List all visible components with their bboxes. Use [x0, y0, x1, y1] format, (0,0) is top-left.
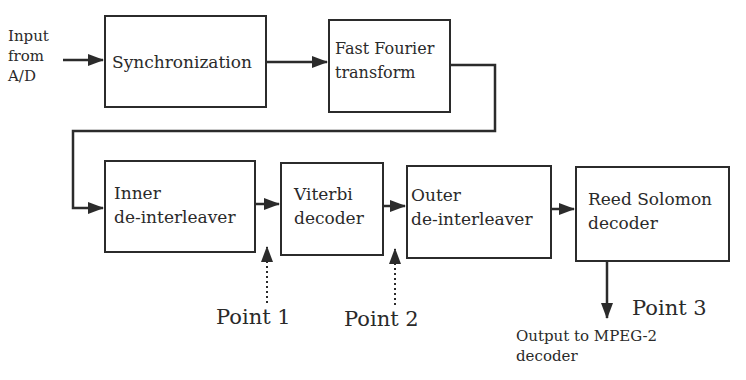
block-outer-deinterleaver: Outer de-interleaver: [406, 165, 552, 259]
input-label: Input from A/D: [8, 26, 49, 86]
point-3-label: Point 3: [632, 295, 707, 321]
output-label: Output to MPEG-2 decoder: [516, 326, 657, 366]
block-reed-solomon-decoder: Reed Solomon decoder: [575, 166, 730, 262]
block-label: Outer de-interleaver: [411, 183, 533, 231]
block-label: Synchronization: [112, 50, 252, 74]
block-viterbi-decoder: Viterbi decoder: [280, 162, 384, 256]
point-2-label: Point 2: [344, 306, 419, 332]
block-fft: Fast Fourier transform: [328, 19, 451, 113]
block-label: Inner de-interleaver: [114, 181, 236, 229]
block-label: Fast Fourier transform: [335, 37, 434, 85]
block-label: Reed Solomon decoder: [588, 187, 712, 235]
block-synchronization: Synchronization: [104, 15, 267, 108]
block-inner-deinterleaver: Inner de-interleaver: [104, 160, 256, 253]
block-label: Viterbi decoder: [294, 182, 364, 230]
point-1-label: Point 1: [216, 304, 291, 330]
